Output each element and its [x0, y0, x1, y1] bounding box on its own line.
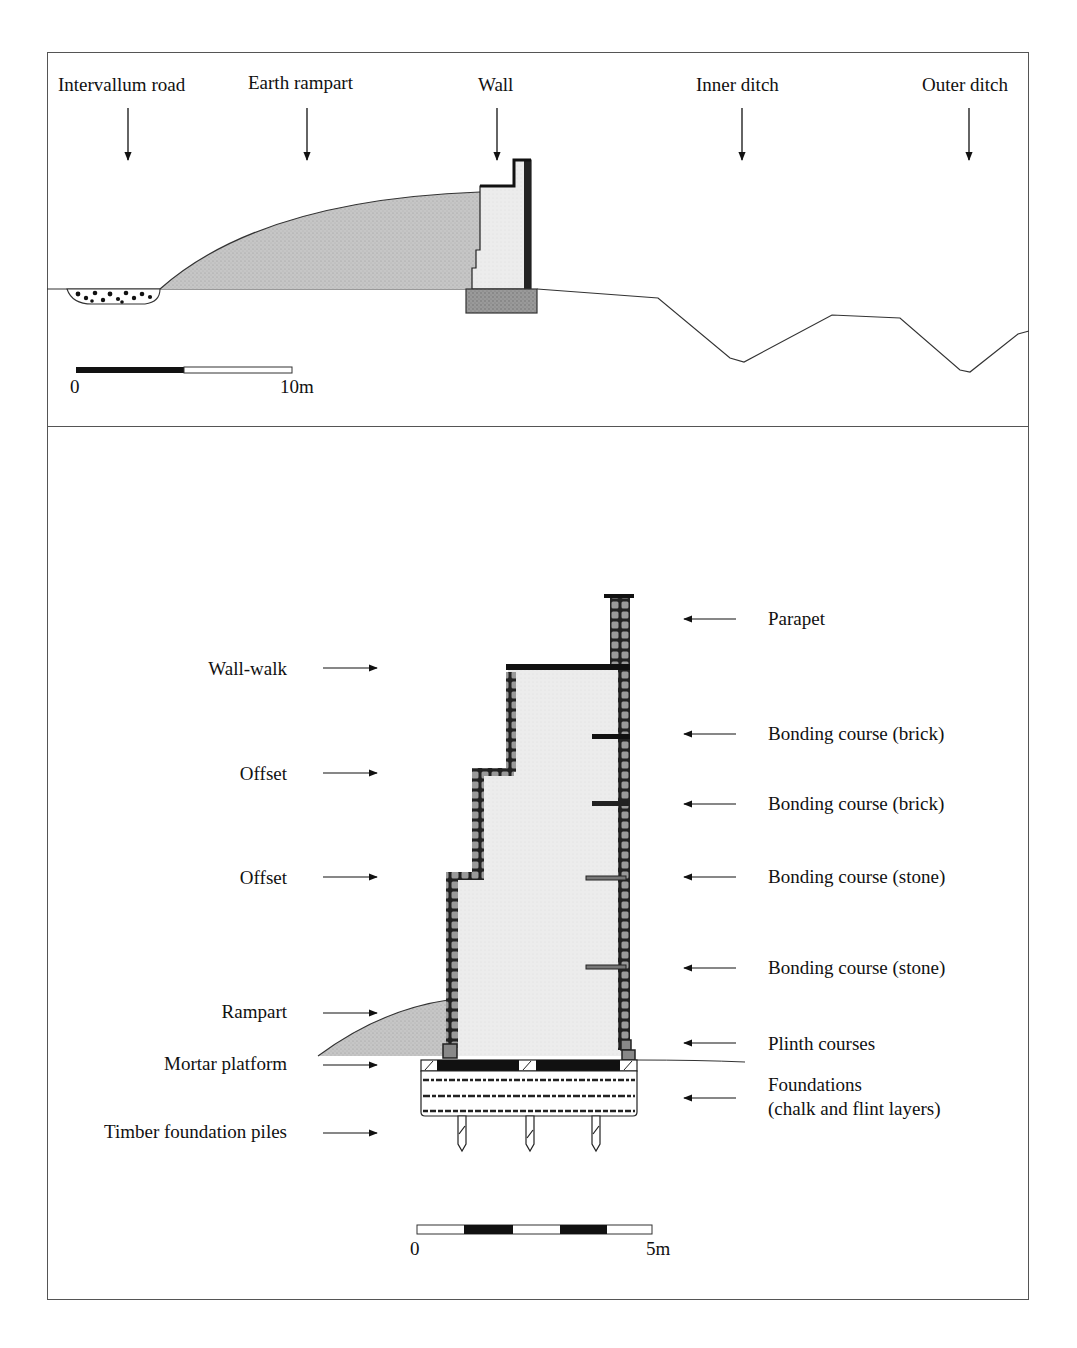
- foundations-shape: [421, 1071, 637, 1116]
- mortar-platform-shape: [421, 1060, 637, 1071]
- top-arrows: [128, 108, 969, 160]
- intervallum-road-shape: [67, 289, 160, 304]
- facing-right: [618, 670, 630, 1050]
- diagram-graphics: [0, 0, 1077, 1348]
- bonding-stone-1-shape: [586, 876, 626, 880]
- facing-middle: [472, 772, 484, 876]
- plinth-right-lower: [622, 1050, 635, 1060]
- rampart-wedge: [318, 1000, 448, 1056]
- bonding-brick-2-shape: [592, 801, 630, 806]
- right-arrows: [684, 619, 736, 1098]
- ditch-profile: [537, 289, 1029, 372]
- facing-upper: [506, 672, 516, 772]
- wall-walk-shape: [506, 664, 630, 670]
- earth-rampart-shape: [160, 192, 480, 289]
- scale-bar-bottom: [417, 1225, 652, 1234]
- timber-piles-shape: [458, 1116, 600, 1151]
- top-wall-foundation: [466, 289, 537, 313]
- left-arrows: [323, 668, 377, 1133]
- parapet-shape: [610, 597, 630, 664]
- scale-bar-top: [76, 367, 292, 373]
- plinth-left: [443, 1044, 457, 1058]
- facing-lower: [446, 876, 458, 1048]
- bonding-stone-2-shape: [586, 965, 626, 969]
- plinth-right-upper: [621, 1040, 631, 1050]
- bonding-brick-1-shape: [592, 734, 630, 739]
